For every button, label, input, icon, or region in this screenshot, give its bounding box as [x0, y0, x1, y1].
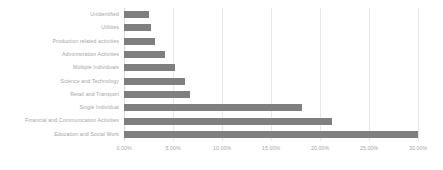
x-tick-label: 30.00%	[409, 143, 427, 153]
bar[interactable]	[124, 104, 302, 111]
bar[interactable]	[124, 131, 418, 138]
bar[interactable]	[124, 64, 175, 71]
category-label: Administration Activities	[62, 48, 119, 61]
bar-row[interactable]	[124, 8, 418, 21]
bar[interactable]	[124, 24, 151, 31]
x-tick-label: 0.00%	[116, 143, 131, 153]
bar-row[interactable]	[124, 48, 418, 61]
x-tick-label: 15.00%	[262, 143, 280, 153]
bar-series	[124, 8, 418, 141]
bar-row[interactable]	[124, 114, 418, 127]
category-label: Unidentified	[90, 8, 119, 21]
bar[interactable]	[124, 78, 185, 85]
bar-row[interactable]	[124, 88, 418, 101]
category-axis-labels: UnidentifiedUtilitiesProduction related …	[0, 8, 119, 141]
category-label: Science and Technology	[61, 75, 119, 88]
bar[interactable]	[124, 91, 190, 98]
category-label: Multiple Individuals	[73, 61, 119, 74]
category-label: Education and Social Work	[54, 128, 119, 141]
x-tick-label: 10.00%	[213, 143, 231, 153]
bar[interactable]	[124, 51, 165, 58]
category-label: Retail and Transport	[70, 88, 119, 101]
bar-row[interactable]	[124, 75, 418, 88]
bar[interactable]	[124, 38, 155, 45]
bar-chart: UnidentifiedUtilitiesProduction related …	[0, 0, 443, 170]
bar-row[interactable]	[124, 128, 418, 141]
category-label: Production related activities	[53, 35, 119, 48]
value-axis-ticks: 0.00%5.00%10.00%15.00%20.00%25.00%30.00%	[124, 143, 418, 155]
category-label: Single Individual	[79, 101, 119, 114]
bar[interactable]	[124, 118, 332, 125]
bar-row[interactable]	[124, 101, 418, 114]
x-tick-label: 20.00%	[311, 143, 329, 153]
plot-area	[124, 8, 418, 141]
bar-row[interactable]	[124, 35, 418, 48]
x-tick-label: 5.00%	[165, 143, 180, 153]
gridline-30.00%	[418, 8, 419, 141]
bar-row[interactable]	[124, 21, 418, 34]
category-label: Financial and Communication Activities	[25, 114, 119, 127]
x-tick-label: 25.00%	[360, 143, 378, 153]
bar[interactable]	[124, 11, 149, 18]
category-label: Utilities	[101, 21, 119, 34]
bar-row[interactable]	[124, 61, 418, 74]
